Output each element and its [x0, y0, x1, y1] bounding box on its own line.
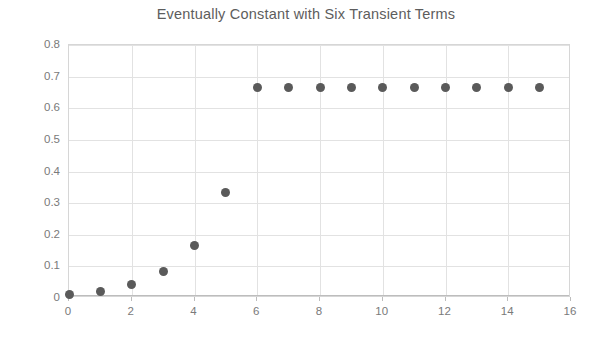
gridline-horizontal	[69, 77, 569, 78]
x-axis-tick-label: 16	[550, 305, 590, 317]
gridline-horizontal	[69, 108, 569, 109]
data-point	[284, 83, 293, 92]
x-axis-tick-label: 14	[487, 305, 527, 317]
data-point	[159, 267, 168, 276]
y-axis-tick-label: 0	[8, 291, 60, 303]
x-axis-tick-label: 12	[425, 305, 465, 317]
gridline-horizontal	[69, 140, 569, 141]
y-axis-tick-label: 0.4	[8, 165, 60, 177]
data-point	[316, 83, 325, 92]
x-axis-baseline	[69, 295, 569, 296]
x-axis-tick-label: 4	[174, 305, 214, 317]
gridline-vertical	[195, 45, 196, 296]
x-axis-tick-label: 6	[236, 305, 276, 317]
data-point	[472, 83, 481, 92]
x-axis-tick-label: 2	[111, 305, 151, 317]
x-axis-tick-label: 0	[48, 305, 88, 317]
gridline-horizontal	[69, 203, 569, 204]
y-axis-tick-label: 0.7	[8, 70, 60, 82]
scatter-chart: Eventually Constant with Six Transient T…	[0, 0, 612, 342]
data-point	[221, 188, 230, 197]
y-axis-tick-label: 0.5	[8, 133, 60, 145]
x-axis-tick-mark	[194, 297, 195, 301]
gridline-horizontal	[69, 235, 569, 236]
plot-area	[68, 44, 570, 297]
x-axis-tick-mark	[131, 297, 132, 301]
data-point	[96, 287, 105, 296]
y-axis-tick-label: 0.1	[8, 259, 60, 271]
data-point	[378, 83, 387, 92]
data-point	[65, 290, 74, 299]
gridline-horizontal	[69, 45, 569, 46]
gridline-vertical	[132, 45, 133, 296]
y-axis-tick-label: 0.6	[8, 101, 60, 113]
x-axis-tick-mark	[319, 297, 320, 301]
x-axis-tick-mark	[445, 297, 446, 301]
y-axis-tick-label: 0.8	[8, 38, 60, 50]
data-point	[127, 280, 136, 289]
gridline-horizontal	[69, 172, 569, 173]
x-axis-tick-mark	[382, 297, 383, 301]
x-axis-tick-mark	[570, 297, 571, 301]
y-axis-tick-label: 0.2	[8, 228, 60, 240]
data-point	[253, 83, 262, 92]
x-axis-tick-mark	[256, 297, 257, 301]
data-point	[441, 83, 450, 92]
data-point	[190, 241, 199, 250]
data-point	[347, 83, 356, 92]
gridline-horizontal	[69, 266, 569, 267]
x-axis-tick-label: 8	[299, 305, 339, 317]
x-axis-tick-label: 10	[362, 305, 402, 317]
x-axis-tick-mark	[507, 297, 508, 301]
data-point	[535, 83, 544, 92]
data-point	[504, 83, 513, 92]
data-point	[410, 83, 419, 92]
y-axis-tick-label: 0.3	[8, 196, 60, 208]
chart-title: Eventually Constant with Six Transient T…	[0, 6, 612, 22]
